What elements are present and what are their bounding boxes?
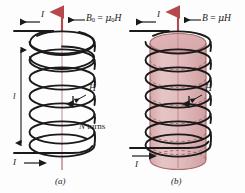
panel-b-field-equation: B = μH xyxy=(202,13,231,24)
panel-a-current-top-label: I xyxy=(41,10,44,19)
panel-a-turns-label: N turns xyxy=(79,122,105,131)
panel-b-caption: (b) xyxy=(171,177,182,186)
panel-a-length-label: l xyxy=(13,92,16,101)
panel-a-length-dimension xyxy=(15,50,27,143)
panel-a-field-equation: B0 = μ0H xyxy=(86,13,121,24)
panel-b-current-top-label: I xyxy=(157,10,160,19)
panel-b-current-bottom-label: I xyxy=(135,160,138,169)
panel-b-h-label: H xyxy=(205,84,212,94)
panel-a-h-leader xyxy=(75,95,86,101)
panel-a-bottom-lead xyxy=(14,146,93,153)
panel-b-equation-h: H xyxy=(224,13,231,23)
panel-b-artwork xyxy=(130,12,211,170)
figure-artwork xyxy=(0,0,245,193)
panel-a-artwork xyxy=(14,12,95,170)
panel-a-turns-word: turns xyxy=(87,121,105,131)
panel-a-current-bottom-label: I xyxy=(13,158,16,167)
panel-a-equation-h: H xyxy=(115,13,122,23)
panel-a-caption: (a) xyxy=(55,177,66,186)
solenoid-figure: I B0 = μ0H l H N turns I (a) I B = μH H … xyxy=(0,0,245,193)
panel-a-h-label: H xyxy=(89,84,96,94)
